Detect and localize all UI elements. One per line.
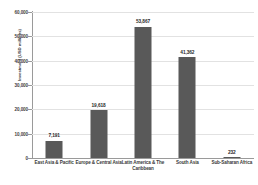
bar-value-label: 19,618 (92, 103, 106, 108)
bar[interactable] (46, 141, 63, 158)
y-axis-tickmark (28, 109, 32, 110)
gridline (32, 12, 254, 13)
bar-chart: Investment (USD millions) 010,00020,0003… (0, 0, 258, 185)
y-axis-tick-label: 60,000 (15, 10, 28, 15)
plot-area: 7,19119,61853,86741,362232 (32, 12, 254, 158)
y-axis-tick-label: 30,000 (15, 83, 28, 88)
x-axis-category-label: Sub-Saharan Africa (201, 160, 258, 166)
y-axis-tick-label: 50,000 (15, 34, 28, 39)
y-axis-tickmark (28, 134, 32, 135)
bar[interactable] (179, 57, 196, 158)
y-axis-tickmark (28, 85, 32, 86)
bar[interactable] (90, 110, 107, 158)
y-axis-tickmark (28, 36, 32, 37)
y-axis-tick-label: 20,000 (15, 107, 28, 112)
y-axis-tick-label: 40,000 (15, 58, 28, 63)
bar-value-label: 232 (228, 150, 236, 155)
x-axis-line (32, 158, 254, 159)
y-axis-tickmark (28, 61, 32, 62)
bar-value-label: 41,362 (180, 50, 194, 55)
y-axis-tick-label: 10,000 (15, 131, 28, 136)
bar-value-label: 53,867 (136, 19, 150, 24)
bar[interactable] (135, 27, 152, 158)
y-axis-tickmark (28, 12, 32, 13)
y-axis-tickmark (28, 158, 32, 159)
x-axis-category-labels: East Asia & PacificEurope & Central Asia… (32, 160, 254, 184)
bar-value-label: 7,191 (48, 133, 60, 138)
y-axis-tick-labels: 010,00020,00030,00040,00050,00060,000 (2, 0, 31, 185)
bar[interactable] (223, 157, 240, 158)
